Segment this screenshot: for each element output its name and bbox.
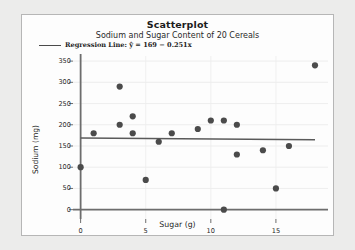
x-axis-tick-label: 10	[201, 227, 221, 235]
y-axis-tick-label: 300	[49, 78, 71, 86]
x-axis-label: Sugar (g)	[22, 220, 333, 229]
y-axis-tick-label: 250	[49, 100, 71, 108]
y-axis-tick-label: 50	[49, 184, 71, 192]
x-axis-tick-label: 15	[266, 227, 286, 235]
x-axis-tick-label: 0	[71, 227, 91, 235]
x-axis-tick-label: 5	[136, 227, 156, 235]
y-axis-tick-label: 200	[49, 121, 71, 129]
chart-panel: Scatterplot Sodium and Sugar Content of …	[21, 14, 334, 236]
y-axis-tick-label: 0	[49, 206, 71, 214]
y-axis-label: Sodium (mg)	[31, 125, 40, 174]
y-axis-tick-label: 150	[49, 142, 71, 150]
y-axis-tick-label: 100	[49, 163, 71, 171]
y-axis-tick-label: 350	[49, 57, 71, 65]
